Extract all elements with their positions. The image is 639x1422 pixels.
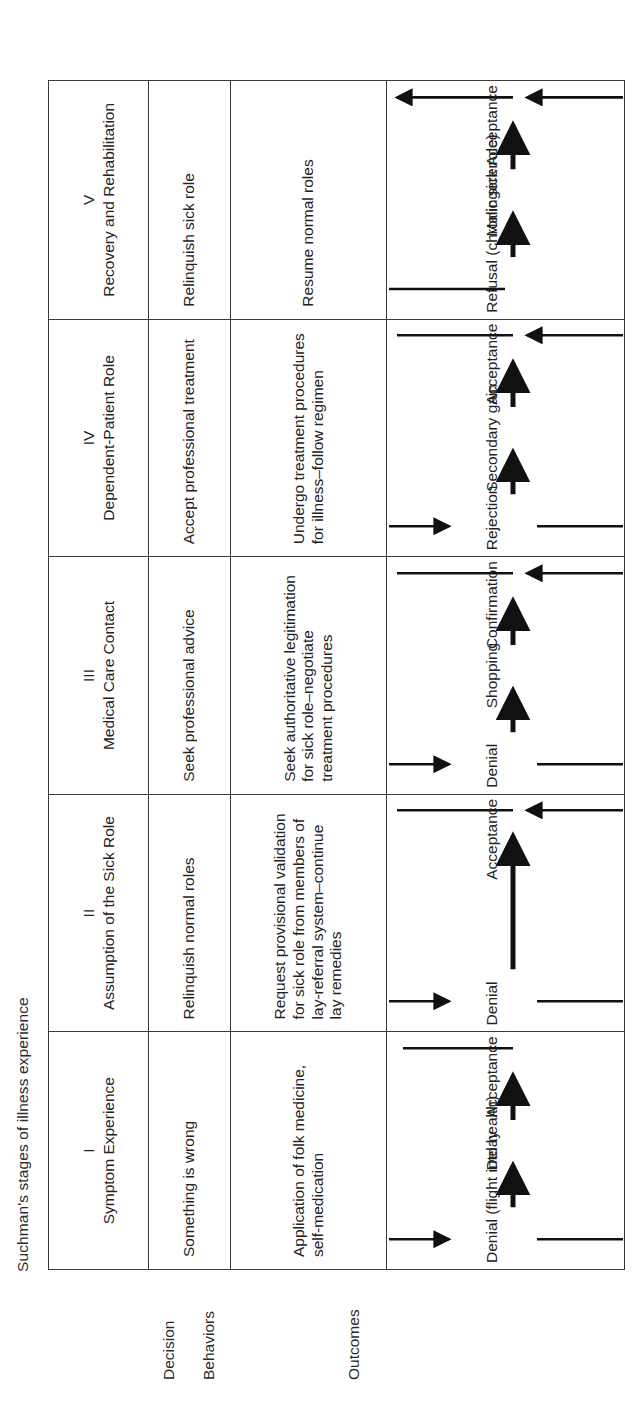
stage-name: Dependent-Patient Role: [99, 355, 118, 520]
table-row-stages: I Symptom Experience II Assumption of th…: [49, 81, 149, 1269]
row-label-outcomes: Outcomes: [345, 1309, 363, 1380]
outcomes-cell-2: Denial Acceptance: [387, 794, 624, 1032]
outcome-flow-5: [387, 81, 624, 319]
rotated-figure-canvas: Suchman's stages of illness experience D…: [0, 0, 639, 1422]
outcome-flow-2: [387, 795, 624, 1032]
outcome-middle-label-1: Delay: [483, 1131, 501, 1171]
outcome-middle-label-3: Shopping: [483, 643, 501, 709]
behaviors-cell-3: Seek authoritative legitimation for sick…: [231, 556, 386, 794]
decision-cell-4: Accept professional treatment: [149, 319, 230, 557]
decision-cell-5: Relinquish sick role: [149, 81, 230, 319]
outcome-start-label-1: Denial (flight into health): [483, 1096, 501, 1263]
stage-name: Recovery and Rehabilitation: [99, 103, 118, 297]
stage-numeral: V: [79, 195, 98, 205]
stage-numeral: I: [79, 1149, 98, 1153]
outcome-flow-4: [387, 320, 624, 557]
table-row-outcomes: Denial (flight into health) Delay Accept…: [387, 81, 624, 1269]
outcome-flow-3: [387, 557, 624, 794]
stage-numeral: III: [79, 669, 98, 682]
stage-name: Assumption of the Sick Role: [99, 816, 118, 1010]
outcome-end-label-3: Confirmation: [483, 561, 501, 649]
outcome-end-label-1: Acceptance: [483, 1036, 501, 1117]
outcome-end-label-4: Acceptance: [483, 324, 501, 405]
row-label-decision: Decision: [160, 1321, 178, 1380]
outcome-start-label-3: Denial: [483, 744, 501, 788]
outcome-end-label-2: Acceptance: [483, 799, 501, 880]
outcome-end-label-5: Acceptance: [483, 85, 501, 166]
decision-cell-2: Relinquish normal roles: [149, 794, 230, 1032]
outcomes-cell-3: Denial Shopping Confirmation: [387, 556, 624, 794]
behaviors-cell-4: Undergo treatment procedures for illness…: [231, 319, 386, 557]
behaviors-cell-2: Request provisional validation for sick …: [231, 794, 386, 1032]
outcome-start-label-2: Denial: [483, 981, 501, 1025]
behaviors-cell-1: Application of folk medicine, self-medic…: [231, 1031, 386, 1269]
outcomes-cell-1: Denial (flight into health) Delay Accept…: [387, 1031, 624, 1269]
decision-cell-3: Seek professional advice: [149, 556, 230, 794]
table-row-decision: Something is wrong Relinquish normal rol…: [149, 81, 231, 1269]
outcomes-cell-5: Refusal (chronic sick role) Malingerer A…: [387, 81, 624, 319]
stage-header-2: II Assumption of the Sick Role: [49, 794, 148, 1032]
stages-table: I Symptom Experience II Assumption of th…: [48, 80, 625, 1270]
row-label-behaviors: Behaviors: [200, 1311, 218, 1380]
outcome-flow-1: [387, 1032, 624, 1269]
outcomes-cell-4: Rejection Secondary gain Acceptance: [387, 319, 624, 557]
stage-header-4: IV Dependent-Patient Role: [49, 319, 148, 557]
decision-cell-1: Something is wrong: [149, 1031, 230, 1269]
figure-title: Suchman's stages of illness experience: [14, 997, 32, 1272]
stage-name: Symptom Experience: [99, 1077, 118, 1224]
table-row-behaviors: Application of folk medicine, self-medic…: [231, 81, 387, 1269]
stage-header-3: III Medical Care Contact: [49, 556, 148, 794]
stage-name: Medical Care Contact: [99, 601, 118, 750]
outcome-start-label-4: Rejection: [483, 486, 501, 551]
stage-numeral: II: [79, 909, 98, 918]
outcome-middle-label-5: Malingerer: [483, 163, 501, 236]
behaviors-cell-5: Resume normal roles: [231, 81, 386, 319]
stage-numeral: IV: [79, 431, 98, 446]
stage-header-1: I Symptom Experience: [49, 1031, 148, 1269]
stage-header-5: V Recovery and Rehabilitation: [49, 81, 148, 319]
